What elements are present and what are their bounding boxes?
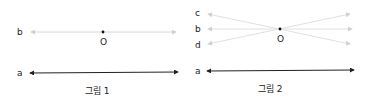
diagram-canvas: b O a 그림 1 c b d O a 그림 2 [0,0,373,104]
label-b: b [17,27,23,37]
caption-figure-2: 그림 2 [258,83,283,94]
label-a: a [195,66,201,76]
label-a: a [17,68,23,78]
label-o: O [277,34,284,44]
label-o: O [100,37,107,47]
line-a [30,72,178,73]
caption-figure-1: 그림 1 [85,85,110,96]
label-d: d [195,40,201,50]
point-o [279,28,282,31]
label-c: c [195,8,200,18]
point-o [102,31,105,34]
figure-2: c b d O a 그림 2 [195,8,354,94]
figure-1: b O a 그림 1 [17,27,178,96]
line-a [207,70,354,71]
label-b: b [195,24,201,34]
